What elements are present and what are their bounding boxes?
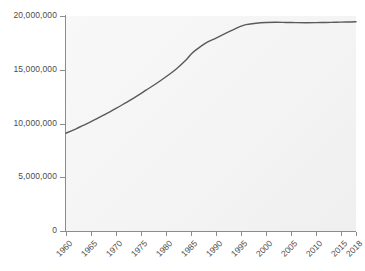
x-axis-tick-label: 2010: [298, 239, 324, 265]
x-axis-tick: [116, 232, 117, 236]
y-axis-tick: [60, 16, 65, 17]
plot-area: [66, 16, 356, 231]
x-axis-tick: [241, 232, 242, 236]
x-axis-line: [65, 231, 356, 232]
y-axis-tick-label: 20,000,000: [13, 11, 57, 20]
x-axis-tick: [66, 232, 67, 236]
x-axis-tick-label: 1965: [73, 239, 99, 265]
x-axis-tick: [356, 232, 357, 236]
x-axis-tick: [316, 232, 317, 236]
x-axis-tick-label: 1980: [148, 239, 174, 265]
x-axis-tick-label: 2005: [273, 239, 299, 265]
x-axis-tick: [291, 232, 292, 236]
x-axis-tick-label: 1995: [223, 239, 249, 265]
x-axis-tick: [91, 232, 92, 236]
x-axis-tick: [341, 232, 342, 236]
y-axis-tick-label: 15,000,000: [13, 65, 57, 74]
x-axis-tick-label: 1985: [173, 239, 199, 265]
x-axis-tick: [266, 232, 267, 236]
x-axis-tick-label: 1990: [198, 239, 224, 265]
y-axis-tick-label: 5,000,000: [18, 172, 57, 181]
x-axis-tick: [216, 232, 217, 236]
y-axis-tick-label: 0: [52, 226, 57, 235]
x-axis-tick: [166, 232, 167, 236]
y-axis-tick: [60, 177, 65, 178]
line-chart: 05,000,00010,000,00015,000,00020,000,000…: [0, 0, 365, 271]
x-axis-tick-label: 1970: [98, 239, 124, 265]
x-axis-tick-label: 1975: [123, 239, 149, 265]
x-axis-tick-label: 2000: [248, 239, 274, 265]
y-axis-tick: [60, 124, 65, 125]
x-axis-tick: [141, 232, 142, 236]
y-axis-tick: [60, 70, 65, 71]
y-axis-tick: [60, 231, 65, 232]
x-axis-tick: [191, 232, 192, 236]
y-axis-line: [65, 15, 66, 232]
x-axis-tick-label: 1960: [48, 239, 74, 265]
y-axis-tick-label: 10,000,000: [13, 119, 57, 128]
